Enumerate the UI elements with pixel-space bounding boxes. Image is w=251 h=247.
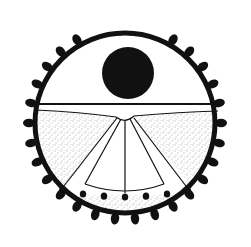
sun-icon — [102, 47, 154, 99]
emblem-drawing — [0, 0, 251, 247]
